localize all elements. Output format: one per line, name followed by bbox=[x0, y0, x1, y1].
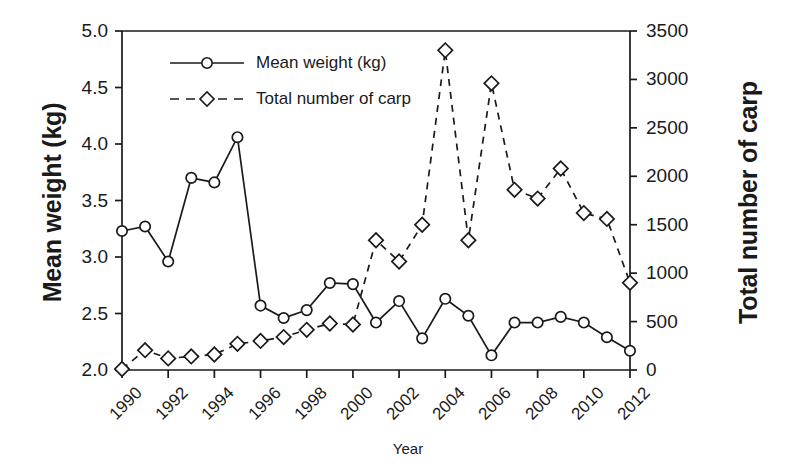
data-point-marker bbox=[325, 278, 335, 288]
data-point-marker bbox=[184, 349, 198, 363]
data-point-marker bbox=[163, 256, 173, 266]
data-point-marker bbox=[371, 317, 381, 327]
data-point-marker bbox=[532, 317, 542, 327]
data-point-marker bbox=[276, 330, 290, 344]
data-point-marker bbox=[415, 218, 429, 232]
data-point-marker bbox=[602, 332, 612, 342]
data-point-marker bbox=[623, 276, 637, 290]
data-point-marker bbox=[346, 317, 360, 331]
data-point-marker bbox=[209, 177, 219, 187]
data-point-marker bbox=[417, 333, 427, 343]
data-point-marker bbox=[579, 317, 589, 327]
data-point-marker bbox=[278, 313, 288, 323]
plot-area bbox=[0, 0, 788, 476]
data-point-marker bbox=[463, 311, 473, 321]
data-point-marker bbox=[255, 300, 265, 310]
data-point-marker bbox=[140, 221, 150, 231]
data-point-marker bbox=[115, 362, 129, 376]
data-point-marker bbox=[394, 296, 404, 306]
data-point-marker bbox=[186, 173, 196, 183]
data-point-marker bbox=[300, 323, 314, 337]
data-point-marker bbox=[625, 346, 635, 356]
data-point-marker bbox=[600, 212, 614, 226]
data-point-marker bbox=[323, 316, 337, 330]
data-point-marker bbox=[509, 317, 519, 327]
data-point-marker bbox=[232, 132, 242, 142]
data-point-marker bbox=[302, 305, 312, 315]
data-point-marker bbox=[461, 233, 475, 247]
data-point-marker bbox=[577, 206, 591, 220]
data-point-marker bbox=[138, 343, 152, 357]
data-point-marker bbox=[207, 347, 221, 361]
data-point-marker bbox=[486, 350, 496, 360]
chart-figure: Mean weight (kg) Total number of carp Ye… bbox=[0, 0, 788, 476]
data-point-marker bbox=[440, 294, 450, 304]
data-point-marker bbox=[117, 226, 127, 236]
data-point-marker bbox=[230, 337, 244, 351]
data-point-marker bbox=[507, 183, 521, 197]
data-point-marker bbox=[161, 351, 175, 365]
data-point-marker bbox=[253, 334, 267, 348]
data-point-marker bbox=[554, 161, 568, 175]
data-point-marker bbox=[530, 191, 544, 205]
data-point-marker bbox=[438, 43, 452, 57]
data-series-layer bbox=[115, 43, 637, 376]
data-point-marker bbox=[556, 312, 566, 322]
data-point-marker bbox=[484, 76, 498, 90]
data-point-marker bbox=[348, 279, 358, 289]
